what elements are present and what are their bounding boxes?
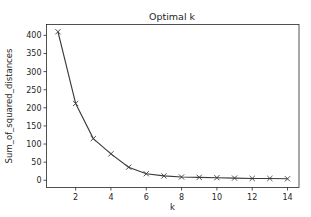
y-tick-label: 150 — [26, 122, 41, 131]
x-marker-icon — [108, 151, 113, 156]
y-axis-label: Sum_of_squared_distances — [4, 48, 14, 163]
x-tick-label: 10 — [212, 193, 222, 202]
x-tick-label: 4 — [108, 193, 113, 202]
data-line — [58, 32, 288, 179]
y-tick-label: 400 — [26, 31, 41, 40]
x-tick-label: 14 — [282, 193, 292, 202]
x-tick-label: 12 — [247, 193, 257, 202]
plot-frame — [47, 25, 300, 188]
x-axis-ticks: 2468101214 — [73, 188, 293, 202]
y-axis-ticks: 050100150200250300350400 — [26, 31, 46, 185]
elbow-chart: Optimal k 050100150200250300350400 24681… — [0, 0, 311, 217]
x-tick-label: 6 — [144, 193, 149, 202]
x-marker-icon — [91, 136, 96, 141]
x-tick-label: 2 — [73, 193, 78, 202]
y-tick-label: 50 — [31, 158, 41, 167]
data-markers — [55, 29, 290, 181]
y-tick-label: 300 — [26, 68, 41, 77]
y-tick-label: 0 — [36, 176, 41, 185]
y-tick-label: 350 — [26, 49, 41, 58]
y-tick-label: 250 — [26, 86, 41, 95]
x-tick-label: 8 — [179, 193, 184, 202]
y-tick-label: 100 — [26, 140, 41, 149]
x-axis-label: k — [170, 202, 175, 212]
x-marker-icon — [126, 165, 131, 170]
y-tick-label: 200 — [26, 104, 41, 113]
chart-title: Optimal k — [149, 11, 196, 22]
